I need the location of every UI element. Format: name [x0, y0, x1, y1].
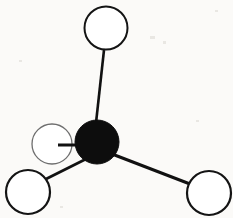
- molecular-diagram-canvas: [0, 0, 233, 218]
- molecule-figure: [0, 0, 233, 218]
- atom-bottom-left: [6, 170, 50, 214]
- atom-top: [85, 7, 128, 50]
- atom-bottom-right: [187, 171, 231, 215]
- central-atom: [75, 120, 119, 164]
